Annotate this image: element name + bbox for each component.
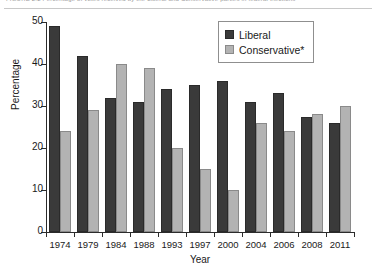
x-label-1993: 1993 [158, 239, 186, 250]
x-label-2008: 2008 [298, 239, 326, 250]
y-axis-title: Percentage [10, 59, 21, 110]
legend-swatch-conservative [225, 45, 234, 54]
y-tick-label: 20 [32, 141, 43, 152]
bar-group-1993 [161, 22, 183, 232]
bar-liberal-1988 [133, 102, 144, 232]
x-label-2006: 2006 [270, 239, 298, 250]
x-label-1979: 1979 [74, 239, 102, 250]
x-label-2000: 2000 [214, 239, 242, 250]
figure-caption-strip: FIGURE 2.2 Percentage of votes received … [0, 0, 376, 9]
bar-group-1979 [77, 22, 99, 232]
x-label-1974: 1974 [46, 239, 74, 250]
y-tick-label: 10 [32, 183, 43, 194]
legend-label-liberal: Liberal [239, 29, 271, 41]
legend-swatch-liberal [225, 30, 234, 39]
x-tick-mark [242, 232, 243, 237]
bar-conservative-1988 [144, 68, 155, 232]
x-tick-mark [130, 232, 131, 237]
bar-conservative-2004 [256, 123, 267, 232]
bar-liberal-1984 [105, 98, 116, 232]
bar-conservative-2000 [228, 190, 239, 232]
x-axis-line [46, 232, 355, 233]
bar-liberal-1979 [77, 56, 88, 232]
chart-legend: Liberal Conservative* [218, 21, 314, 63]
bar-liberal-1997 [189, 85, 200, 232]
bar-group-1974 [49, 22, 71, 232]
bar-conservative-1997 [200, 169, 211, 232]
y-tick-label: 50 [32, 15, 43, 26]
x-tick-mark [298, 232, 299, 237]
y-tick-label: 30 [32, 99, 43, 110]
legend-label-conservative: Conservative* [239, 44, 304, 56]
bar-liberal-2000 [217, 81, 228, 232]
x-tick-mark [214, 232, 215, 237]
bar-conservative-1974 [60, 131, 71, 232]
bar-conservative-1984 [116, 64, 127, 232]
x-tick-mark [102, 232, 103, 237]
bar-group-2011 [329, 22, 351, 232]
bar-liberal-2004 [245, 102, 256, 232]
bar-liberal-2011 [329, 123, 340, 232]
x-label-1984: 1984 [102, 239, 130, 250]
x-tick-mark [354, 232, 355, 237]
bar-liberal-1974 [49, 26, 60, 232]
x-tick-mark [270, 232, 271, 237]
x-tick-mark [74, 232, 75, 237]
x-tick-mark [46, 232, 47, 237]
bar-group-1997 [189, 22, 211, 232]
bar-conservative-2006 [284, 131, 295, 232]
bar-group-1988 [133, 22, 155, 232]
x-label-1997: 1997 [186, 239, 214, 250]
bar-liberal-1993 [161, 89, 172, 232]
x-label-2011: 2011 [326, 239, 354, 250]
x-tick-mark [326, 232, 327, 237]
y-tick-label: 0 [37, 225, 43, 236]
bar-conservative-1979 [88, 110, 99, 232]
x-label-2004: 2004 [242, 239, 270, 250]
bar-chart-figure: Percentage 01020304050 19741979198419881… [0, 9, 376, 278]
bar-conservative-1993 [172, 148, 183, 232]
legend-item-liberal: Liberal [225, 27, 304, 42]
y-tick-label: 40 [32, 57, 43, 68]
bar-conservative-2011 [340, 106, 351, 232]
x-axis-title: Year [46, 254, 354, 265]
bar-conservative-2008 [312, 114, 323, 232]
bar-liberal-2008 [301, 117, 312, 233]
bar-liberal-2006 [273, 93, 284, 232]
figure-caption-text: FIGURE 2.2 Percentage of votes received … [6, 0, 295, 2]
legend-item-conservative: Conservative* [225, 42, 304, 57]
bar-group-1984 [105, 22, 127, 232]
x-tick-mark [158, 232, 159, 237]
x-tick-mark [186, 232, 187, 237]
x-label-1988: 1988 [130, 239, 158, 250]
